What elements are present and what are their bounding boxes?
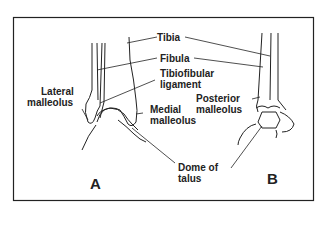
label-fibula: Fibula <box>160 54 189 64</box>
label-medial-malleolus: malleolus <box>150 116 196 126</box>
panel-label-b: B <box>267 171 278 186</box>
label-lateral-malleolus: malleolus <box>27 98 73 108</box>
panel-a-drawing <box>82 37 146 150</box>
panel-label-a: A <box>90 176 101 191</box>
panel-b-drawing <box>238 33 294 145</box>
label-posterior-malleolus: malleolus <box>196 105 242 115</box>
label-lateral: Lateral <box>41 87 74 97</box>
label-posterior: Posterior <box>196 94 240 104</box>
label-ligament: ligament <box>160 80 201 90</box>
label-tibiofibular: Tibiofibular <box>160 69 214 79</box>
label-medial: Medial <box>150 105 181 115</box>
label-talus: talus <box>178 174 201 184</box>
label-tibia: Tibia <box>157 33 180 43</box>
label-dome-of: Dome of <box>178 163 218 173</box>
